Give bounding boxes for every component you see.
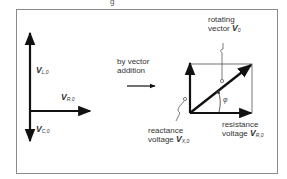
rotating-vector-leader bbox=[221, 43, 223, 79]
rotating-vector-marker bbox=[220, 79, 223, 82]
resistance-line1: resistance bbox=[222, 120, 263, 129]
rotating-vector-text: vector bbox=[208, 24, 232, 33]
phasor-diagram bbox=[0, 0, 287, 179]
vector-addition-line2: addition bbox=[117, 66, 149, 75]
resistance-text: voltage bbox=[222, 129, 250, 138]
vl0-subscript: L,0 bbox=[42, 69, 49, 75]
reactance-line2: voltage VX,0 bbox=[148, 135, 189, 146]
right-phasor-group bbox=[176, 43, 252, 121]
v0-subscript: 0 bbox=[238, 27, 241, 33]
reactance-line1: reactance bbox=[148, 126, 189, 135]
rotating-vector-label: rotating vector V0 bbox=[208, 15, 240, 35]
vector-addition-line1: by vector bbox=[117, 57, 149, 66]
reactance-leader bbox=[176, 101, 184, 121]
vector-addition-label: by vector addition bbox=[117, 57, 149, 75]
rotating-vector-line2: vector V0 bbox=[208, 24, 240, 35]
vr0-left-subscript: R,0 bbox=[67, 96, 75, 102]
phi-angle-label: φ bbox=[223, 95, 228, 104]
vc0-subscript: C,0 bbox=[42, 128, 50, 134]
vr0-right-subscript: R,0 bbox=[256, 132, 264, 138]
vx0-subscript: X,0 bbox=[182, 138, 190, 144]
label-vl0: VL,0 bbox=[36, 66, 49, 77]
reactance-text: voltage bbox=[148, 135, 176, 144]
label-vr0-left: VR,0 bbox=[61, 93, 74, 104]
reactance-voltage-label: reactance voltage VX,0 bbox=[148, 126, 189, 146]
phi-angle-arc bbox=[218, 91, 220, 112]
reactance-marker bbox=[183, 97, 186, 100]
resistance-line2: voltage VR,0 bbox=[222, 129, 263, 140]
label-vc0: VC,0 bbox=[36, 125, 49, 136]
resistance-voltage-label: resistance voltage VR,0 bbox=[222, 120, 263, 140]
